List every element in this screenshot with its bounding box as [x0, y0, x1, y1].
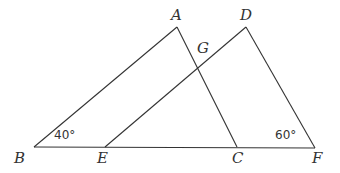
label-g: G [197, 39, 209, 57]
segment-ed [105, 27, 246, 147]
segment-bf [34, 147, 315, 148]
label-c: C [232, 149, 244, 167]
geometry-diagram: A D G B E C F 40° 60° [0, 0, 340, 173]
label-d: D [239, 6, 252, 24]
angle-f-label: 60° [275, 128, 296, 142]
label-f: F [311, 149, 323, 167]
label-a: A [169, 6, 182, 24]
label-e: E [96, 149, 108, 167]
label-b: B [13, 149, 25, 167]
angle-b-label: 40° [54, 128, 75, 142]
